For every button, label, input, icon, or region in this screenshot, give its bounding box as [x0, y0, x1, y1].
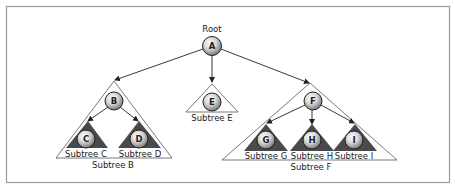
subtree-b-label: Subtree B — [92, 160, 134, 170]
node-f: F — [304, 92, 322, 110]
svg-text:G: G — [263, 135, 270, 145]
subtree-c-label: Subtree C — [65, 149, 107, 159]
subtree-i-label: Subtree I — [335, 151, 374, 161]
subtree-h-label: Subtree H — [291, 151, 333, 161]
subtree-g-label: Subtree G — [245, 151, 288, 161]
tree-diagram: A B C D E F G H I Root Subtree C Subtree… — [0, 0, 455, 188]
node-a: A — [203, 37, 222, 56]
node-e: E — [203, 93, 221, 111]
svg-text:B: B — [111, 96, 117, 106]
node-c: C — [77, 130, 95, 148]
node-h: H — [303, 131, 321, 149]
subtree-f-label: Subtree F — [291, 162, 332, 172]
svg-text:A: A — [209, 41, 216, 51]
svg-text:C: C — [83, 134, 89, 144]
node-d: D — [130, 130, 148, 148]
node-i: I — [345, 131, 363, 149]
root-label: Root — [202, 24, 222, 34]
node-b: B — [105, 92, 123, 110]
svg-text:E: E — [209, 97, 215, 107]
svg-text:F: F — [310, 96, 316, 106]
svg-text:H: H — [308, 135, 315, 145]
svg-text:D: D — [135, 134, 142, 144]
node-g: G — [257, 131, 275, 149]
svg-text:I: I — [352, 135, 355, 145]
subtree-d-label: Subtree D — [119, 149, 162, 159]
subtree-e-label: Subtree E — [191, 113, 232, 123]
